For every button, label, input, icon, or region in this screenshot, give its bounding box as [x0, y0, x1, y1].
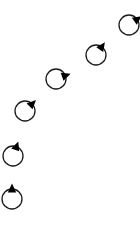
agent-pose [15, 100, 36, 121]
agent-pose [3, 141, 23, 166]
agent-pose [46, 69, 71, 89]
heading-arrow-icon [8, 184, 16, 193]
agent-pose [2, 184, 22, 210]
agent-pose [119, 15, 140, 35]
agent-pose [86, 42, 106, 65]
trajectory-diagram [0, 0, 140, 227]
pose-group [2, 15, 140, 209]
